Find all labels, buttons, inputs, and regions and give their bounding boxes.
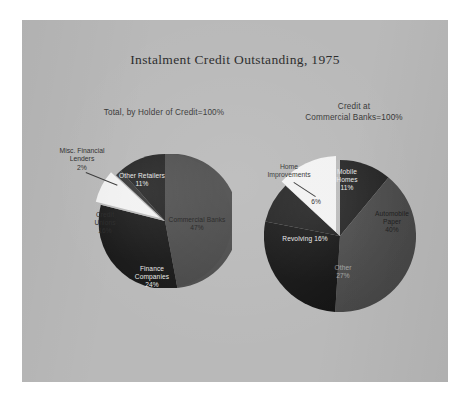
lbl-finance-cos-line-1: Finance [119,265,185,273]
lbl-credit-unions-line-1: Credit [78,211,132,219]
right-chart-subtitle: Credit at Commercial Banks=100% [266,102,442,123]
left-chart-subtitle: Total, by Holder of Credit=100% [52,108,276,119]
lbl-other-right-line-1: Other [322,264,364,272]
label-other-retailers: Other Retailers11% [118,172,166,188]
page-title: Instalment Credit Outstanding, 1975 [22,52,448,68]
label-mobile-homes: MobileHomes11% [325,168,369,192]
label-home-improvements-value: 6% [304,198,328,206]
lbl-home-impr-pct-line-1: 6% [304,198,328,206]
label-revolving: Revolving 16% [274,235,336,243]
lbl-home-impr-line-1: Home [258,163,320,171]
lbl-auto-paper-line-2: Paper [363,218,421,226]
lbl-home-impr-line-2: Improvements [258,171,320,179]
right-chart-subtitle-line1: Credit at [266,102,442,113]
label-commercial-banks: Commercial Banks47% [162,216,232,232]
label-finance-companies: FinanceCompanies24% [119,265,185,289]
lbl-misc-lenders-line-3: 2% [48,164,116,172]
lbl-commercial-banks-line-1: Commercial Banks [162,216,232,224]
lbl-credit-unions-line-2: Unions [78,219,132,227]
lbl-misc-lenders-line-2: Lenders [48,155,116,163]
label-credit-unions: CreditUnions16% [78,211,132,235]
lbl-auto-paper-line-1: Automobile [363,210,421,218]
lbl-credit-unions-line-3: 16% [78,227,132,235]
lbl-other-right-line-2: 27% [322,272,364,280]
lbl-mobile-homes-line-2: Homes [325,176,369,184]
label-automobile-paper: AutomobilePaper40% [363,210,421,234]
lbl-finance-cos-line-2: Companies [119,273,185,281]
figure-plate: Instalment Credit Outstanding, 1975 Tota… [22,20,448,382]
label-other: Other27% [322,264,364,280]
lbl-mobile-homes-line-1: Mobile [325,168,369,176]
lbl-mobile-homes-line-3: 11% [325,184,369,192]
lbl-misc-lenders-line-1: Misc. Financial [48,147,116,155]
lbl-finance-cos-line-3: 24% [119,281,185,289]
lbl-commercial-banks-line-2: 47% [162,224,232,232]
lbl-revolving-line-1: Revolving 16% [274,235,336,243]
right-chart-subtitle-line2: Commercial Banks=100% [266,113,442,124]
callout-misc-financial-lenders: Misc. FinancialLenders2% [48,147,116,172]
callout-home-improvements: HomeImprovements [258,163,320,180]
lbl-auto-paper-line-3: 40% [363,226,421,234]
lbl-other-retailers-line-2: 11% [118,180,166,188]
lbl-other-retailers-line-1: Other Retailers [118,172,166,180]
